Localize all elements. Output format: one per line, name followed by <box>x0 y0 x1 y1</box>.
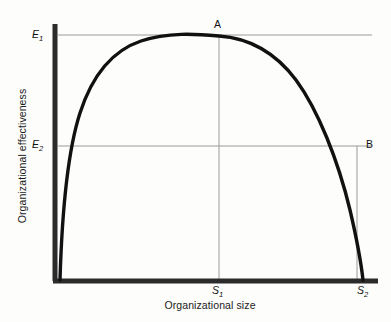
x-tick-label-s1: S1 <box>212 284 223 299</box>
point-label-b: B <box>366 138 373 150</box>
effectiveness-curve <box>60 34 363 280</box>
x-tick-s2-base: S <box>357 284 364 296</box>
chart-canvas: Organizational effectiveness Organizatio… <box>0 0 391 322</box>
y-axis-title: Organizational effectiveness <box>16 46 28 266</box>
y-tick-e1-base: E <box>32 28 39 40</box>
y-tick-e1-sub: 1 <box>39 34 43 43</box>
x-axis-title: Organizational size <box>56 299 364 311</box>
x-tick-s1-base: S <box>212 284 219 296</box>
x-tick-label-s2: S2 <box>357 284 368 299</box>
y-tick-e2-base: E <box>32 138 39 150</box>
chart-plot-area <box>0 0 391 322</box>
y-tick-e2-sub: 2 <box>39 144 43 153</box>
x-tick-s1-sub: 1 <box>219 290 223 299</box>
x-tick-s2-sub: 2 <box>364 290 368 299</box>
point-label-a: A <box>214 18 221 30</box>
y-tick-label-e1: E1 <box>32 28 43 43</box>
y-tick-label-e2: E2 <box>32 138 43 153</box>
